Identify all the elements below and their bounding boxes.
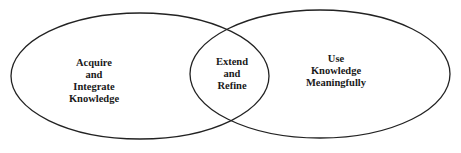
right-label-line: Use xyxy=(300,53,372,65)
right-label-line: Knowledge xyxy=(300,65,372,77)
right-circle-label: Use Knowledge Meaningfully xyxy=(300,53,372,89)
intersection-label-line: and xyxy=(210,68,254,80)
intersection-label-line: Extend xyxy=(210,56,254,68)
left-label-line: and xyxy=(68,69,120,81)
right-label-line: Meaningfully xyxy=(300,77,372,89)
venn-diagram: Acquire and Integrate Knowledge Extend a… xyxy=(0,0,461,153)
intersection-label: Extend and Refine xyxy=(210,56,254,92)
left-label-line: Integrate xyxy=(68,81,120,93)
left-circle-label: Acquire and Integrate Knowledge xyxy=(68,57,120,105)
intersection-label-line: Refine xyxy=(210,80,254,92)
left-label-line: Knowledge xyxy=(68,93,120,105)
left-label-line: Acquire xyxy=(68,57,120,69)
